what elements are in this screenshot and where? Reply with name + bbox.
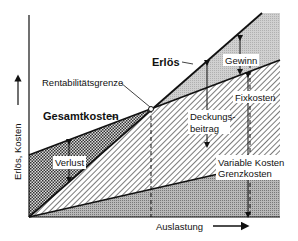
break-even-diagram: Erlös Gesamtkosten Rentabilitätsgrenze G… [0,0,298,241]
erloes-leader [182,62,193,64]
break-even-label: Rentabilitätsgrenze [42,77,123,88]
y-axis-label: Erlös, Kosten [12,124,23,181]
variable-cost-label-2: Grenzkosten [218,168,272,179]
loss-label: Verlust [55,157,84,168]
total-cost-label: Gesamtkosten [43,110,119,122]
contribution-label-1: Deckungs- [190,111,235,122]
break-even-leader [121,83,150,107]
x-axis-label: Auslastung [156,221,203,232]
break-even-point [149,107,154,112]
variable-cost-label-1: Variable Kosten [218,157,284,168]
revenue-label: Erlös [152,56,180,68]
contribution-label-2: beitrag [190,123,219,134]
profit-label: Gewinn [225,55,257,66]
fixed-cost-label: Fixkosten [235,92,276,103]
